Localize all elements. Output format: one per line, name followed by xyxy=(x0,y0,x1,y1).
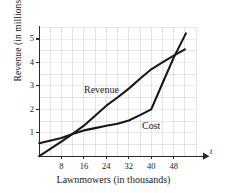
x-tick-label-48: 48 xyxy=(165,161,183,171)
x-tick-label-24: 24 xyxy=(97,161,115,171)
series-annotation-revenue: Revenue xyxy=(84,84,119,95)
y-axis-title-text: Revenue (in millions) xyxy=(13,0,23,99)
series-annotation-cost: Cost xyxy=(142,120,160,131)
y-tick-label-1: 1 xyxy=(20,127,34,137)
x-tick-label-8: 8 xyxy=(52,161,70,171)
x-tick-label-16: 16 xyxy=(75,161,93,171)
y-tick-label-2: 2 xyxy=(20,104,34,114)
chart-figure: 5 4 3 2 1 8 16 24 32 40 48 t Revenue Cos… xyxy=(0,0,227,193)
y-axis-title: Revenue (in millions) xyxy=(13,0,27,99)
x-axis-title: Lawnmowers (in thousands) xyxy=(0,174,227,185)
series-line-revenue xyxy=(39,49,185,156)
x-tick-label-40: 40 xyxy=(142,161,160,171)
x-tick-label-32: 32 xyxy=(120,161,138,171)
x-axis-arrowhead xyxy=(203,153,210,160)
x-axis-variable-label: t xyxy=(210,146,212,156)
grid-vertical xyxy=(50,27,196,156)
